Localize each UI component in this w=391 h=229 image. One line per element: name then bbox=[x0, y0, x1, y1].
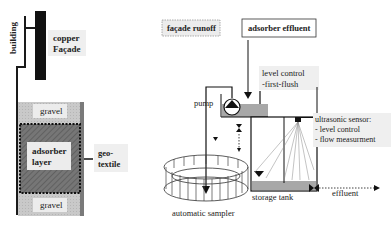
facade-runoff-label: façade runoff bbox=[167, 23, 216, 33]
effluent-label: effluent bbox=[332, 188, 359, 198]
adsorber-effluent-label: adsorber effluent bbox=[248, 23, 311, 33]
ultrasonic-sensor-icon bbox=[295, 117, 301, 122]
building-label: building bbox=[8, 21, 18, 54]
gravel-bottom-label: gravel bbox=[40, 200, 63, 210]
inflow-arrow-icon bbox=[244, 92, 252, 99]
storage-tank bbox=[251, 87, 317, 191]
effluent-arrow-icon bbox=[374, 185, 380, 191]
copper-facade bbox=[35, 11, 46, 80]
valve-icon bbox=[236, 124, 242, 132]
automatic-sampler-label: automatic sampler bbox=[172, 208, 235, 218]
monitoring-setup-diagram: building copper Façade gravel adsorber l… bbox=[0, 0, 391, 229]
pump-label: pump bbox=[194, 98, 213, 108]
storage-tank-label: storage tank bbox=[252, 192, 294, 202]
gravel-top-label: gravel bbox=[40, 106, 63, 116]
copper-facade-label: copper Façade bbox=[53, 33, 82, 54]
sampler-arrow-icon bbox=[202, 186, 210, 194]
